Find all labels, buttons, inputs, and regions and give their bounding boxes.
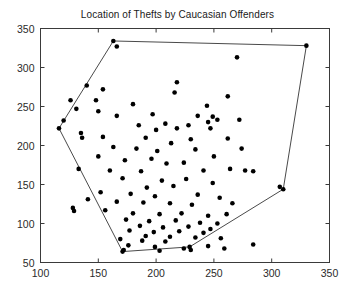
scatter-point <box>225 94 230 99</box>
scatter-point <box>140 238 145 243</box>
scatter-point <box>74 107 79 112</box>
data-point-layer <box>61 44 282 253</box>
scatter-point <box>94 98 99 103</box>
y-tick-label: 250 <box>17 101 35 113</box>
tick-label-layer: 10015020025030035050100150200250300350 <box>17 23 338 279</box>
scatter-point <box>138 224 143 229</box>
scatter-point <box>208 227 213 232</box>
scatter-point <box>230 201 235 206</box>
scatter-point <box>143 135 148 140</box>
scatter-point <box>155 149 160 154</box>
scatter-point <box>131 102 136 107</box>
scatter-point <box>153 194 158 199</box>
scatter-point <box>251 169 256 174</box>
hull-vertex-point <box>57 126 62 131</box>
scatter-point <box>139 169 144 174</box>
scatter-point <box>172 90 177 95</box>
scatter-point <box>215 221 220 226</box>
scatter-point <box>182 160 187 165</box>
scatter-point <box>224 212 229 217</box>
axes-frame <box>41 29 330 263</box>
scatter-point <box>101 87 106 92</box>
scatter-point <box>143 234 148 239</box>
scatter-point <box>188 137 193 142</box>
scatter-point <box>210 181 215 186</box>
convex-hull-outline <box>57 39 309 254</box>
scatter-point <box>168 201 173 206</box>
scatter-point <box>86 197 91 202</box>
y-tick-label: 150 <box>17 179 35 191</box>
scatter-point <box>175 80 180 85</box>
scatter-point <box>114 44 119 49</box>
scatter-point <box>217 195 222 200</box>
scatter-point <box>160 178 165 183</box>
scatter-point <box>235 55 240 60</box>
scatter-point <box>145 185 150 190</box>
x-tick-label: 350 <box>321 267 339 279</box>
scatter-point <box>127 228 132 233</box>
scatter-point <box>108 168 113 173</box>
scatter-point <box>114 114 119 119</box>
scatter-point <box>136 123 141 128</box>
scatter-point <box>153 245 158 250</box>
scatter-point <box>134 146 139 151</box>
scatter-point <box>239 146 244 151</box>
scatter-point <box>151 230 156 235</box>
hull-polygon <box>59 41 306 252</box>
x-tick-label: 150 <box>90 267 108 279</box>
y-tick-label: 100 <box>17 218 35 230</box>
figure-container: Location of Thefts by Caucasian Offender… <box>0 0 355 295</box>
scatter-point <box>188 248 193 253</box>
y-tick-label: 350 <box>17 23 35 35</box>
scatter-point <box>195 114 200 119</box>
scatter-point <box>225 136 230 141</box>
scatter-point <box>103 208 108 213</box>
scatter-point <box>118 237 123 242</box>
scatter-point <box>72 209 77 214</box>
scatter-point <box>215 117 220 122</box>
scatter-point <box>173 218 178 223</box>
scatter-point <box>126 243 131 248</box>
scatter-point <box>96 109 101 114</box>
scatter-point <box>198 220 203 225</box>
scatter-point <box>182 246 187 251</box>
scatter-point <box>168 234 173 239</box>
scatter-point <box>186 224 191 229</box>
hull-vertex-point <box>304 43 309 48</box>
scatter-point <box>206 244 211 249</box>
x-tick-label: 300 <box>263 267 281 279</box>
x-tick-label: 250 <box>205 267 223 279</box>
scatter-point <box>111 145 116 150</box>
scatter-plot: 10015020025030035050100150200250300350 <box>0 0 355 295</box>
scatter-point <box>201 231 206 236</box>
scatter-point <box>212 154 217 159</box>
scatter-point <box>114 199 119 204</box>
scatter-point <box>154 128 159 133</box>
scatter-point <box>205 103 210 108</box>
scatter-point <box>243 168 248 173</box>
scatter-point <box>228 167 233 172</box>
scatter-point <box>206 120 211 125</box>
scatter-point <box>169 141 174 146</box>
scatter-point <box>157 212 162 217</box>
scatter-point <box>177 229 182 234</box>
scatter-point <box>131 211 136 216</box>
scatter-point <box>186 123 191 128</box>
scatter-point <box>68 98 73 103</box>
y-tick-label: 50 <box>23 257 35 269</box>
scatter-point <box>184 177 189 182</box>
scatter-point <box>141 200 146 205</box>
scatter-point <box>79 131 84 136</box>
scatter-point <box>179 211 184 216</box>
scatter-point <box>190 202 195 207</box>
scatter-point <box>76 167 81 172</box>
y-tick-label: 300 <box>17 62 35 74</box>
scatter-point <box>193 147 198 152</box>
scatter-point <box>80 135 85 140</box>
scatter-point <box>124 217 129 222</box>
y-tick-label: 200 <box>17 140 35 152</box>
scatter-point <box>208 126 213 131</box>
scatter-point <box>164 161 169 166</box>
scatter-point <box>147 219 152 224</box>
scatter-point <box>206 213 211 218</box>
